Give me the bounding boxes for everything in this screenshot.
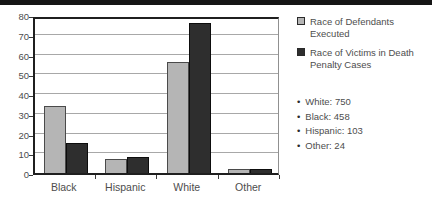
bar-black-defendants bbox=[44, 106, 66, 173]
x-axis-label-other: Other bbox=[213, 181, 283, 193]
gridline bbox=[35, 113, 278, 114]
stats-item-other-text: Other: 24 bbox=[305, 139, 345, 154]
y-tick bbox=[29, 175, 33, 176]
stats-item-black: • Black: 458 bbox=[297, 110, 429, 125]
gridline bbox=[35, 93, 278, 94]
legend-swatch-victims bbox=[297, 48, 305, 56]
stats-item-hispanic: • Hispanic: 103 bbox=[297, 124, 429, 139]
x-axis-label-hispanic: Hispanic bbox=[90, 181, 160, 193]
y-tick bbox=[29, 57, 33, 58]
y-tick-label-70: 70 bbox=[7, 31, 29, 42]
y-tick bbox=[29, 17, 33, 18]
x-axis-label-white: White bbox=[152, 181, 222, 193]
gridline bbox=[35, 54, 278, 55]
bullet-icon: • bbox=[297, 124, 300, 139]
plot-area bbox=[33, 17, 279, 175]
legend-item-defendants: Race of Defendants Executed bbox=[297, 16, 429, 40]
y-tick bbox=[29, 37, 33, 38]
bar-other-defendants bbox=[228, 169, 250, 173]
y-tick bbox=[29, 96, 33, 97]
y-tick-label-50: 50 bbox=[7, 70, 29, 81]
bar-other-victims bbox=[250, 169, 272, 173]
bar-hispanic-defendants bbox=[105, 159, 127, 173]
y-tick-label-10: 10 bbox=[7, 149, 29, 160]
bar-black-victims bbox=[66, 143, 88, 173]
legend-label-defendants: Race of Defendants Executed bbox=[310, 16, 429, 40]
chart-canvas: Race of Defendants Executed Race of Vict… bbox=[0, 0, 432, 207]
y-tick-label-0: 0 bbox=[7, 169, 29, 180]
bullet-icon: • bbox=[297, 110, 300, 125]
stats-item-black-text: Black: 458 bbox=[305, 110, 349, 125]
y-tick-label-20: 20 bbox=[7, 130, 29, 141]
bar-hispanic-victims bbox=[127, 157, 149, 173]
stats-item-other: • Other: 24 bbox=[297, 139, 429, 154]
stats-item-hispanic-text: Hispanic: 103 bbox=[305, 124, 363, 139]
stats-item-white-text: White: 750 bbox=[305, 95, 350, 110]
y-tick-label-40: 40 bbox=[7, 90, 29, 101]
x-tick bbox=[156, 175, 157, 179]
bar-white-victims bbox=[189, 23, 211, 173]
y-tick bbox=[29, 76, 33, 77]
gridline bbox=[35, 133, 278, 134]
gridline bbox=[35, 73, 278, 74]
top-divider-bar bbox=[0, 0, 432, 5]
x-tick bbox=[95, 175, 96, 179]
legend-swatch-defendants bbox=[297, 17, 305, 25]
legend-label-victims: Race of Victims in Death Penalty Cases bbox=[310, 47, 429, 71]
x-tick bbox=[279, 175, 280, 179]
y-tick bbox=[29, 116, 33, 117]
bullet-icon: • bbox=[297, 139, 300, 154]
legend-item-victims: Race of Victims in Death Penalty Cases bbox=[297, 47, 429, 71]
y-tick-label-80: 80 bbox=[7, 11, 29, 22]
stats-list: • White: 750 • Black: 458 • Hispanic: 10… bbox=[297, 95, 429, 153]
y-tick-label-60: 60 bbox=[7, 51, 29, 62]
x-axis-label-black: Black bbox=[29, 181, 99, 193]
y-tick bbox=[29, 155, 33, 156]
stats-item-white: • White: 750 bbox=[297, 95, 429, 110]
y-tick bbox=[29, 136, 33, 137]
bar-white-defendants bbox=[167, 62, 189, 173]
bullet-icon: • bbox=[297, 95, 300, 110]
y-tick-label-30: 30 bbox=[7, 110, 29, 121]
gridline bbox=[35, 34, 278, 35]
x-tick bbox=[218, 175, 219, 179]
legend-panel: Race of Defendants Executed Race of Vict… bbox=[297, 16, 429, 153]
